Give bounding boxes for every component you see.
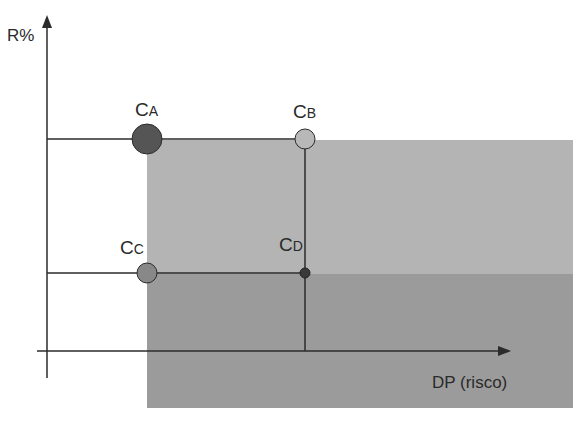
x-axis-label: DP (risco): [432, 373, 507, 392]
y-axis-arrow-icon: [42, 15, 52, 28]
risk-return-diagram: R% DP (risco) CA CB CC CD: [0, 0, 585, 421]
label-point-c: CC: [120, 237, 144, 258]
label-point-a: CA: [135, 99, 159, 120]
region-upper: [147, 140, 573, 274]
region-lower: [147, 274, 573, 408]
point-c: [137, 263, 157, 283]
label-point-d: CD: [279, 234, 303, 255]
point-d: [300, 268, 310, 278]
label-point-b: CB: [293, 101, 316, 122]
y-axis-label: R%: [7, 26, 34, 45]
point-a: [132, 124, 162, 154]
point-b: [295, 129, 315, 149]
